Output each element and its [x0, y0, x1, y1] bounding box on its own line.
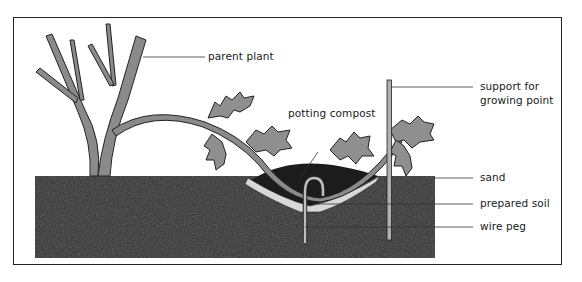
label-support-line1: support for: [480, 80, 539, 93]
label-prepared-soil: prepared soil: [480, 197, 550, 210]
holly-leaves: [204, 92, 434, 176]
label-sand: sand: [480, 171, 506, 184]
soil-block: [35, 176, 435, 258]
label-support-line2: growing point: [480, 94, 553, 107]
label-wire-peg: wire peg: [480, 220, 526, 233]
label-potting-compost: potting compost: [288, 107, 376, 120]
support-stake: [387, 80, 392, 240]
layering-illustration: [0, 0, 582, 282]
label-parent-plant: parent plant: [208, 50, 274, 63]
parent-plant: [36, 24, 146, 176]
